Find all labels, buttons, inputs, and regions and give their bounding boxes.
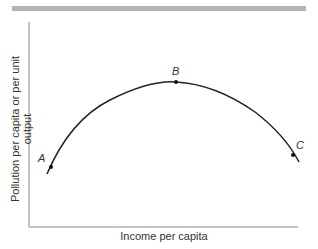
point-c-label: C [296, 139, 304, 151]
x-axis-label: Income per capita [29, 230, 299, 242]
point-a-label: A [38, 152, 45, 164]
y-axis-label: Pollution per capita or per unit output [9, 44, 33, 214]
point-a-marker [49, 165, 53, 169]
point-c-marker [291, 153, 295, 157]
kuznets-curve-diagram [0, 0, 318, 249]
point-b-label: B [172, 65, 179, 77]
pollution-income-curve [47, 82, 299, 174]
point-b-marker [174, 80, 178, 84]
